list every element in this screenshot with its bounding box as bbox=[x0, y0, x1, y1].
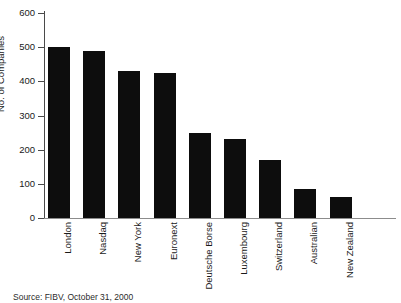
y-axis-tick-mark bbox=[38, 150, 44, 151]
x-axis-category-label-text: Australian bbox=[309, 222, 319, 264]
y-axis-tick-mark bbox=[38, 218, 44, 219]
y-axis-tick-label: 300 bbox=[19, 111, 35, 121]
bar bbox=[294, 189, 316, 218]
bar bbox=[224, 139, 246, 218]
x-axis-category-label-text: Nasdaq bbox=[98, 222, 108, 255]
y-axis-tick-label: 400 bbox=[19, 77, 35, 87]
x-axis-line bbox=[44, 218, 396, 219]
bar bbox=[48, 47, 70, 218]
plot-area: 6005004003002001000 bbox=[44, 13, 396, 218]
y-axis-title: No. of Companies bbox=[0, 36, 6, 112]
x-axis-category-label-text: Switzerland bbox=[274, 222, 284, 271]
x-axis-category-label-text: New York bbox=[133, 222, 143, 262]
x-axis-category-label-text: New Zealand bbox=[345, 222, 355, 278]
y-axis-tick-mark bbox=[38, 116, 44, 117]
x-axis-category-label-text: Deutsche Borse bbox=[204, 222, 214, 290]
x-axis-category-label-text: London bbox=[63, 222, 73, 254]
bar bbox=[83, 51, 105, 218]
y-axis-tick-mark bbox=[38, 13, 44, 14]
source-note: Source: FIBV, October 31, 2000 bbox=[13, 293, 133, 302]
bar-chart-figure: No. of Companies 6005004003002001000 Lon… bbox=[0, 0, 401, 303]
x-axis-category-label-text: Luxembourg bbox=[239, 222, 249, 275]
y-axis-tick-label: 100 bbox=[19, 179, 35, 189]
bar bbox=[259, 160, 281, 218]
y-axis-tick-label: 200 bbox=[19, 145, 35, 155]
bar bbox=[118, 71, 140, 218]
x-axis-category-label-text: Euronext bbox=[169, 222, 179, 260]
y-axis-tick-label: 0 bbox=[30, 213, 35, 223]
bar bbox=[189, 133, 211, 218]
y-axis-tick-mark bbox=[38, 184, 44, 185]
y-axis-tick-label: 600 bbox=[19, 8, 35, 18]
y-axis-tick-mark bbox=[38, 81, 44, 82]
y-axis-tick-mark bbox=[38, 47, 44, 48]
y-axis-tick-label: 500 bbox=[19, 42, 35, 52]
bar bbox=[330, 197, 352, 218]
bar bbox=[154, 73, 176, 218]
